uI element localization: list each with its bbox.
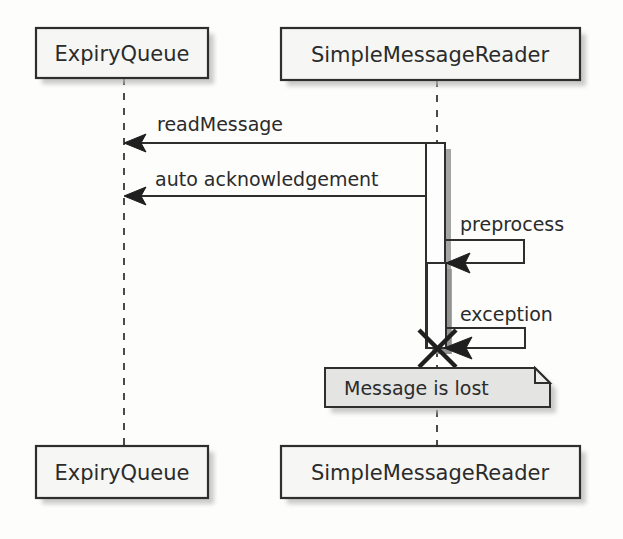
participant-foot-expiry-queue-label: ExpiryQueue [55, 461, 190, 485]
message-lost-note-fold-icon [535, 368, 550, 383]
message-preprocess-label: preprocess [460, 213, 564, 235]
message-lost-note-label: Message is lost [344, 377, 489, 399]
participant-foot-simple-message-reader[interactable]: SimpleMessageReader [281, 446, 586, 504]
uml-sequence-diagram: ExpiryQueue SimpleMessageReader readMess… [0, 0, 623, 539]
message-read-message-label: readMessage [157, 113, 283, 135]
diagram-canvas: ExpiryQueue SimpleMessageReader readMess… [0, 0, 623, 539]
message-exception-label: exception [460, 303, 553, 325]
participant-foot-expiry-queue[interactable]: ExpiryQueue [36, 446, 214, 504]
participant-head-simple-message-reader[interactable]: SimpleMessageReader [281, 28, 586, 86]
participant-head-expiry-queue[interactable]: ExpiryQueue [36, 28, 214, 84]
participant-foot-simple-message-reader-label: SimpleMessageReader [311, 461, 549, 485]
activation-inner-bar [427, 263, 446, 348]
message-auto-acknowledgement-label: auto acknowledgement [155, 168, 379, 190]
participant-head-expiry-queue-label: ExpiryQueue [55, 42, 190, 66]
message-preprocess[interactable]: preprocess [445, 213, 564, 273]
message-read-message[interactable]: readMessage [124, 113, 426, 152]
message-exception[interactable]: exception [444, 303, 553, 359]
participant-head-simple-message-reader-label: SimpleMessageReader [311, 43, 549, 67]
message-auto-acknowledgement[interactable]: auto acknowledgement [124, 168, 426, 205]
message-lost-note[interactable]: Message is lost [325, 368, 556, 413]
